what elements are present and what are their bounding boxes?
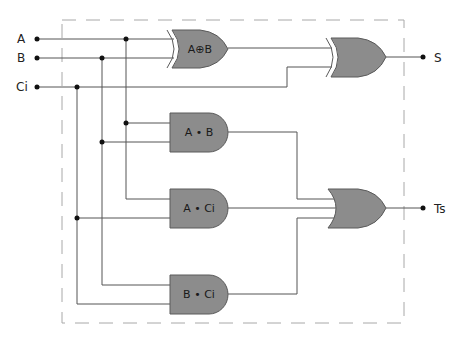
- full-adder-diagram: A⊕B A • B A • Ci B • Ci A B Ci S Ts: [0, 0, 460, 338]
- input-wires: [37, 39, 332, 304]
- and1-label: A • B: [185, 126, 214, 139]
- output-s-terminal: [421, 55, 426, 60]
- output-ts-label: Ts: [433, 202, 446, 216]
- input-b-terminal: [35, 56, 40, 61]
- input-ci-terminal: [35, 85, 40, 90]
- and3-label: B • Ci: [183, 288, 215, 301]
- and-gate-a-and-ci: A • Ci: [170, 189, 228, 228]
- input-a-label: A: [17, 32, 26, 46]
- output-s-label: S: [434, 51, 442, 65]
- xor-gate-a-xor-b: A⊕B: [167, 30, 228, 68]
- input-ci-label: Ci: [16, 80, 28, 94]
- input-a-terminal: [35, 37, 40, 42]
- input-b-label: B: [17, 51, 25, 65]
- and2-label: A • Ci: [183, 202, 215, 215]
- or-gate-carry: [328, 189, 386, 228]
- internal-wires: [228, 48, 423, 294]
- and-gate-a-and-b: A • B: [170, 113, 228, 152]
- and-gate-b-and-ci: B • Ci: [170, 275, 228, 314]
- xor-gate-sum: [326, 38, 386, 77]
- xor1-label: A⊕B: [188, 43, 212, 56]
- output-ts-terminal: [421, 206, 426, 211]
